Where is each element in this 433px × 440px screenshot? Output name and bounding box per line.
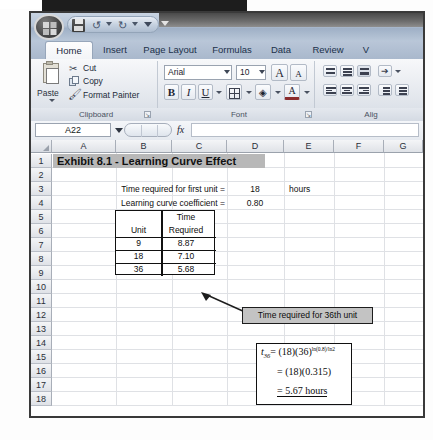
fill-color-dropdown-icon[interactable]	[275, 91, 281, 94]
copy-icon[interactable]	[69, 76, 80, 87]
row-header-10[interactable]: 10	[31, 280, 52, 294]
row-header-1[interactable]: 1	[31, 154, 52, 168]
font-color-dropdown-icon[interactable]	[304, 91, 310, 94]
row-header-16[interactable]: 16	[31, 364, 52, 378]
tab-insert[interactable]: Insert	[95, 41, 135, 59]
underline-button[interactable]: U	[198, 84, 213, 100]
select-all-corner[interactable]	[31, 140, 52, 153]
row-header-9[interactable]: 9	[31, 266, 52, 280]
formula-line1-expr: = (18)(36)	[270, 346, 311, 357]
formula-line-1: t36= (18)(36)ln(0.8)/ln2	[261, 346, 335, 359]
grow-font-icon[interactable]: A	[271, 64, 288, 81]
tab-home[interactable]: Home	[45, 41, 93, 60]
formula-line-2: = (18)(0.315)	[277, 366, 331, 377]
name-box-dropdown-icon[interactable]	[115, 128, 123, 133]
formula-exponent: ln(0.8)/ln2	[312, 346, 335, 352]
undo-icon[interactable]: ↺	[90, 19, 103, 32]
clipboard-dialog-launcher-icon[interactable]: ↘	[144, 111, 151, 118]
formula-input[interactable]	[191, 123, 419, 137]
row-header-6[interactable]: 6	[31, 224, 52, 238]
row-header-7[interactable]: 7	[31, 238, 52, 252]
table-cell-time-3: 5.68	[160, 263, 212, 276]
page-margin	[0, 0, 42, 9]
align-left-icon[interactable]	[323, 84, 337, 96]
row-header-12[interactable]: 12	[31, 308, 52, 322]
row-header-17[interactable]: 17	[31, 378, 52, 392]
value-first-unit-time[interactable]: 18	[227, 182, 283, 196]
bold-button[interactable]: B	[164, 84, 179, 100]
font-size-dropdown-icon[interactable]	[259, 70, 265, 74]
tab-data[interactable]: Data	[265, 41, 297, 59]
row-header-8[interactable]: 8	[31, 252, 52, 266]
redo-icon[interactable]: ↻	[116, 19, 129, 32]
align-bottom-icon[interactable]	[357, 65, 371, 77]
paste-label[interactable]: Paste	[37, 88, 59, 98]
col-header-E[interactable]: E	[284, 140, 334, 153]
insert-function-icon[interactable]: fx	[177, 124, 184, 135]
table-cell-time-1: 8.87	[160, 237, 212, 250]
save-icon[interactable]	[72, 19, 85, 32]
col-header-D[interactable]: D	[227, 140, 284, 153]
office-button[interactable]	[34, 14, 64, 40]
align-top-icon[interactable]	[323, 65, 337, 77]
shrink-font-icon[interactable]: A	[290, 64, 307, 81]
table-header-time: Time	[160, 211, 212, 224]
ribbon-tabs: Home Insert Page Layout Formulas Data Re…	[31, 41, 423, 59]
name-box[interactable]: A22	[35, 123, 111, 137]
row-header-11[interactable]: 11	[31, 294, 52, 308]
decrease-indent-icon[interactable]	[378, 84, 392, 96]
row-header-18[interactable]: 18	[31, 392, 52, 406]
row-header-14[interactable]: 14	[31, 336, 52, 350]
formula-bar-buttons	[124, 123, 172, 137]
paste-icon[interactable]	[41, 63, 61, 85]
paste-dropdown-icon[interactable]	[49, 99, 55, 102]
cut-label[interactable]: Cut	[83, 63, 96, 73]
tab-view[interactable]: V	[359, 41, 373, 59]
row-header-3[interactable]: 3	[31, 182, 52, 196]
label-learning-coefficient: Learning curve coefficient =	[91, 196, 225, 210]
row-header-5[interactable]: 5	[31, 210, 52, 224]
copy-label[interactable]: Copy	[83, 76, 103, 86]
font-dialog-launcher-icon[interactable]: ↘	[305, 111, 312, 118]
format-painter-icon[interactable]: 🖌	[68, 89, 79, 100]
value-learning-coefficient[interactable]: 0.80	[227, 196, 283, 210]
col-header-B[interactable]: B	[116, 140, 172, 153]
row-header-2[interactable]: 2	[31, 168, 52, 182]
orientation-icon[interactable]: ➔	[378, 65, 392, 77]
customize-qat-icon[interactable]	[144, 22, 152, 27]
label-first-unit-time: Time required for first unit =	[91, 182, 225, 196]
italic-button[interactable]: I	[181, 84, 196, 100]
undo-dropdown-icon[interactable]	[106, 22, 112, 26]
quick-access-toolbar: ↺ ↻	[67, 16, 159, 33]
col-header-A[interactable]: A	[52, 140, 116, 153]
redo-dropdown-icon[interactable]	[132, 22, 138, 26]
increase-indent-icon[interactable]	[395, 84, 409, 96]
col-header-F[interactable]: F	[334, 140, 384, 153]
align-center-icon[interactable]	[340, 84, 354, 96]
borders-icon[interactable]	[226, 84, 242, 100]
font-name-input[interactable]: Arial	[164, 65, 232, 80]
titlebar-menu-icon[interactable]	[161, 21, 169, 26]
orientation-dropdown-icon[interactable]	[395, 70, 401, 73]
row-header-4[interactable]: 4	[31, 196, 52, 210]
borders-dropdown-icon[interactable]	[246, 91, 252, 94]
callout-arrow-icon	[199, 292, 247, 314]
col-header-G[interactable]: G	[384, 140, 423, 153]
tab-review[interactable]: Review	[306, 41, 350, 59]
fill-color-icon[interactable]: ◈	[255, 84, 271, 100]
font-color-icon[interactable]: A	[284, 84, 300, 100]
align-middle-icon[interactable]	[340, 65, 354, 77]
underline-dropdown-icon[interactable]	[216, 91, 222, 94]
tab-formulas[interactable]: Formulas	[207, 41, 257, 59]
excel-screenshot: ↺ ↻ Home Insert Page Layout Formulas Dat…	[29, 11, 425, 418]
align-right-icon[interactable]	[357, 84, 371, 96]
font-name-dropdown-icon[interactable]	[224, 70, 230, 74]
table-cell-unit-1: 9	[116, 237, 161, 250]
worksheet-grid: A B C D E F G 1 2 3 4 5 6 7 8 9 10 11 12…	[31, 140, 423, 416]
format-painter-label[interactable]: Format Painter	[83, 90, 139, 100]
row-header-13[interactable]: 13	[31, 322, 52, 336]
cut-icon[interactable]: ✂	[69, 63, 80, 74]
row-header-15[interactable]: 15	[31, 350, 52, 364]
col-header-C[interactable]: C	[172, 140, 227, 153]
tab-page-layout[interactable]: Page Layout	[139, 41, 201, 59]
